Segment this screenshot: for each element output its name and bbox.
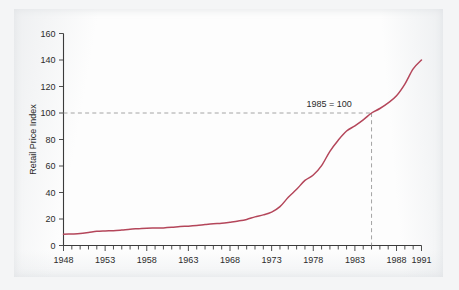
y-axis-tick-labels: 020406080100120140160: [40, 29, 55, 251]
annotation-guide-lines: [64, 113, 372, 246]
annotation-label: 1985 = 100: [307, 99, 352, 109]
y-tick-label: 120: [40, 82, 55, 92]
x-tick-label: 1953: [95, 255, 115, 265]
x-axis-ticks: [64, 246, 422, 252]
x-tick-label: 1968: [220, 255, 240, 265]
x-tick-label: 1983: [345, 255, 365, 265]
x-axis-tick-labels: 1948195319581963196819731978198319881991: [53, 255, 431, 265]
data-series-line: [64, 60, 422, 234]
y-tick-label: 80: [45, 135, 55, 145]
x-tick-label: 1963: [178, 255, 198, 265]
y-axis-title: Retail Price Index: [28, 104, 38, 175]
y-tick-label: 100: [40, 108, 55, 118]
x-tick-label: 1991: [411, 255, 431, 265]
y-tick-label: 160: [40, 29, 55, 39]
y-tick-label: 40: [45, 188, 55, 198]
chart-plot-area: 020406080100120140160 194819531958196319…: [0, 0, 459, 290]
annotation-labels: 1985 = 100: [307, 99, 352, 109]
y-tick-label: 60: [45, 161, 55, 171]
x-tick-label: 1988: [387, 255, 407, 265]
y-tick-label: 20: [45, 214, 55, 224]
y-tick-label: 140: [40, 55, 55, 65]
y-axis-ticks: [59, 34, 64, 246]
figure-container: 020406080100120140160 194819531958196319…: [0, 0, 459, 290]
x-tick-label: 1958: [137, 255, 157, 265]
x-tick-label: 1948: [53, 255, 73, 265]
x-tick-label: 1973: [262, 255, 282, 265]
y-tick-label: 0: [50, 241, 55, 251]
line-chart-svg: 020406080100120140160 194819531958196319…: [0, 0, 459, 290]
x-tick-label: 1978: [303, 255, 323, 265]
